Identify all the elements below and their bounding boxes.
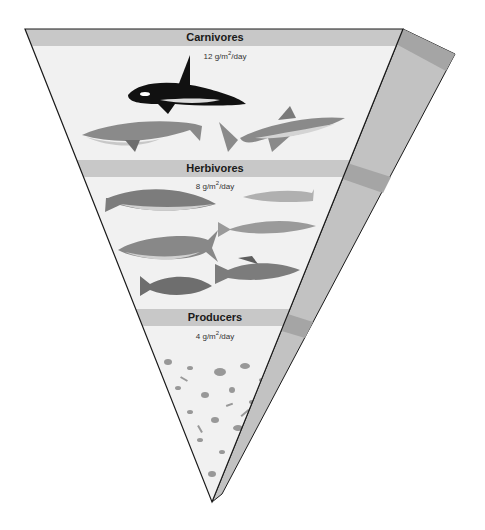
- rate-value: 4: [196, 332, 200, 341]
- rate-unit-suffix: /day: [219, 332, 234, 341]
- rate-value: 12: [204, 52, 213, 61]
- rate-value: 8: [196, 182, 200, 191]
- rate-unit: g/m: [202, 332, 215, 341]
- level-title-carnivores: Carnivores: [150, 31, 280, 43]
- level-title-producers: Producers: [150, 311, 280, 323]
- level-rate-carnivores: 12 g/m2/day: [170, 50, 280, 61]
- pyramid-graphic: [0, 0, 485, 530]
- level-title-herbivores: Herbivores: [150, 162, 280, 174]
- level-rate-herbivores: 8 g/m2/day: [160, 180, 270, 191]
- level-rate-producers: 4 g/m2/day: [160, 330, 270, 341]
- rate-unit: g/m: [215, 52, 228, 61]
- rate-unit-suffix: /day: [219, 182, 234, 191]
- rate-unit: g/m: [202, 182, 215, 191]
- rate-unit-suffix: /day: [231, 52, 246, 61]
